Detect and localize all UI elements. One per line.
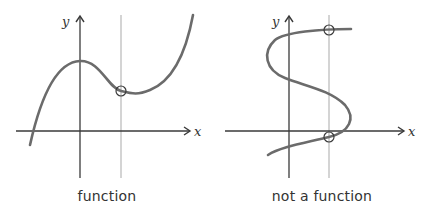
not-a-function-diagram: y x: [225, 14, 416, 178]
y-axis-label: y: [61, 14, 70, 29]
not-a-function-caption: not a function: [242, 188, 402, 204]
vertical-line-test-diagrams: y x y x: [0, 0, 426, 219]
x-axis-label: x: [194, 124, 202, 139]
function-curve: [30, 15, 193, 145]
function-caption: function: [27, 188, 187, 204]
y-axis-label: y: [271, 14, 280, 29]
function-diagram: y x: [16, 14, 202, 178]
x-axis-label: x: [408, 124, 416, 139]
s-curve: [267, 29, 351, 155]
